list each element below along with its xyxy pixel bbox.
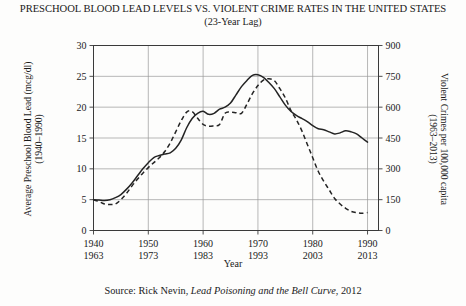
series-blood-lead: [94, 79, 368, 213]
x-tick-label-primary: 1960: [193, 238, 213, 249]
y-right-tick-label: 450: [386, 133, 401, 144]
tick-labels: 0510152025300150300450600750900194019631…: [77, 40, 401, 260]
source-note: Source: Rick Nevin, Lead Poisoning and t…: [0, 285, 466, 296]
x-tick-label-primary: 1970: [248, 238, 268, 249]
y-left-tick-label: 15: [77, 133, 87, 144]
chart-figure: PRESCHOOL BLOOD LEAD LEVELS VS. VIOLENT …: [0, 0, 466, 306]
y-right-tick-label: 150: [386, 194, 401, 205]
x-tick-label-primary: 1980: [303, 238, 323, 249]
source-suffix: , 2012: [336, 285, 362, 296]
tickmarks: [90, 46, 383, 235]
y-left-tick-label: 25: [77, 71, 87, 82]
y-right-tick-label: 750: [386, 71, 401, 82]
source-prefix: Source: Rick Nevin,: [104, 285, 190, 296]
x-tick-label-primary: 1990: [358, 238, 378, 249]
y-left-tick-label: 30: [77, 40, 87, 51]
gridlines: [94, 46, 379, 231]
y-left-tick-label: 20: [77, 102, 87, 113]
source-book-title: Lead Poisoning and the Bell Curve: [191, 285, 336, 296]
series-violent-crime: [94, 74, 368, 200]
x-axis-label: Year: [0, 258, 466, 269]
series-layer: [94, 74, 368, 213]
y-right-tick-label: 0: [386, 225, 391, 236]
y-left-tick-label: 0: [82, 225, 87, 236]
x-tick-label-primary: 1950: [138, 238, 158, 249]
x-tick-label-primary: 1940: [84, 238, 104, 249]
y-right-tick-label: 900: [386, 40, 401, 51]
y-right-tick-label: 600: [386, 102, 401, 113]
y-right-tick-label: 300: [386, 163, 401, 174]
y-left-tick-label: 10: [77, 163, 87, 174]
y-left-tick-label: 5: [82, 194, 87, 205]
